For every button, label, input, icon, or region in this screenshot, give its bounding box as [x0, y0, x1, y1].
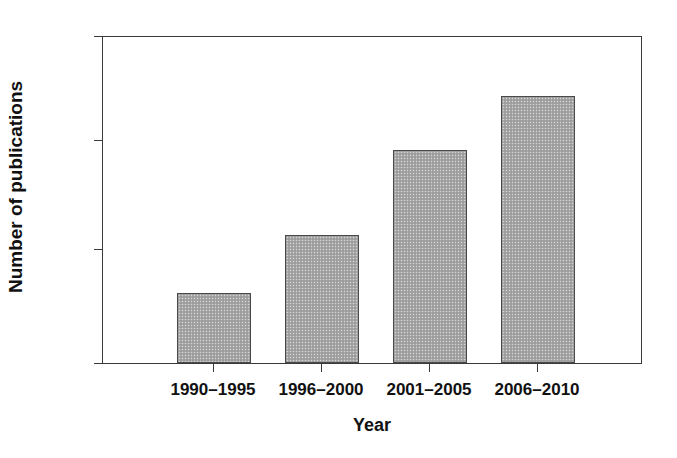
x-tick-mark-2	[321, 364, 322, 372]
x-tick-mark-4	[537, 364, 538, 372]
bar-2001-2005	[393, 150, 467, 363]
x-tick-mark-3	[429, 364, 430, 372]
x-axis-title: Year	[102, 415, 642, 436]
bar-2006-2010	[501, 96, 575, 363]
y-axis-title: Number of publications	[5, 22, 27, 352]
bar-chart-figure: Number of publications 150 100 50 0 1990…	[0, 0, 677, 458]
plot-area	[102, 36, 642, 364]
bar-1996-2000	[285, 235, 359, 363]
bar-1990-1995	[177, 293, 251, 363]
x-tick-mark-1	[213, 364, 214, 372]
x-tick-label-2006-2010: 2006–2010	[472, 381, 602, 398]
